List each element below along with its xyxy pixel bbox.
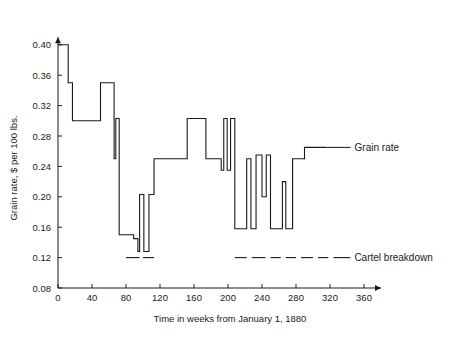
y-tick-label: 0.40 xyxy=(33,39,52,50)
chart-annotations: Grain rateCartel breakdown xyxy=(327,142,433,263)
x-tick-label: 360 xyxy=(356,292,372,303)
x-tick-label: 40 xyxy=(87,292,98,303)
x-tick-label: 80 xyxy=(121,292,132,303)
y-tick-labels: 0.080.120.160.200.240.280.320.360.40 xyxy=(33,39,52,293)
y-tick-label: 0.12 xyxy=(33,252,52,263)
y-tick-label: 0.36 xyxy=(33,70,52,81)
tick-marks xyxy=(58,45,364,288)
grain-rate-chart: 04080120160200240280320360 0.080.120.160… xyxy=(0,0,467,338)
grain-rate-label: Grain rate xyxy=(355,142,400,153)
x-tick-label: 280 xyxy=(288,292,304,303)
x-tick-label: 120 xyxy=(152,292,168,303)
y-tick-label: 0.32 xyxy=(33,100,52,111)
x-tick-labels: 04080120160200240280320360 xyxy=(55,292,372,303)
y-tick-label: 0.08 xyxy=(33,283,52,294)
y-tick-label: 0.16 xyxy=(33,222,52,233)
grain-rate-line xyxy=(58,45,327,252)
chart-canvas: 04080120160200240280320360 0.080.120.160… xyxy=(0,0,467,338)
y-tick-label: 0.24 xyxy=(33,161,52,172)
y-tick-label: 0.20 xyxy=(33,191,52,202)
x-tick-label: 160 xyxy=(186,292,202,303)
x-tick-label: 0 xyxy=(55,292,60,303)
x-tick-label: 320 xyxy=(322,292,338,303)
x-tick-label: 200 xyxy=(220,292,236,303)
x-tick-label: 240 xyxy=(254,292,270,303)
y-axis-arrowhead xyxy=(55,37,61,43)
y-axis-title: Grain rate, $ per 100 lbs. xyxy=(8,115,19,220)
x-axis-arrowhead xyxy=(375,285,381,291)
x-axis-title: Time in weeks from January 1, 1880 xyxy=(154,313,307,324)
data-series-grain-rate xyxy=(58,45,327,252)
axes xyxy=(55,37,381,291)
cartel-breakdown-label: Cartel breakdown xyxy=(354,252,432,263)
y-tick-label: 0.28 xyxy=(33,131,52,142)
